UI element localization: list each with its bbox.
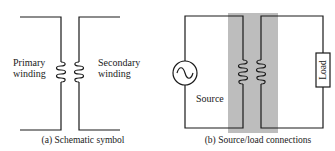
secondary-label-1: Secondary: [98, 57, 140, 68]
primary-coil-icon: [57, 62, 66, 82]
primary-label-2: winding: [13, 68, 46, 79]
source-label: Source: [196, 93, 224, 104]
transformer-figure: Primary winding Secondary winding (a) Sc…: [0, 0, 335, 151]
secondary-label-2: winding: [98, 68, 131, 79]
caption-a: (a) Schematic symbol: [42, 135, 125, 146]
secondary-coil-icon: [75, 62, 84, 82]
core-shading: [228, 13, 278, 133]
load-label: Load: [318, 60, 328, 80]
primary-label-1: Primary: [13, 57, 45, 68]
caption-b: (b) Source/load connections: [205, 135, 312, 146]
